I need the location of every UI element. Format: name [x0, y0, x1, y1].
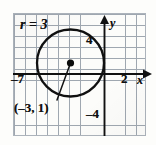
- center-point-dot: [67, 59, 74, 66]
- center-leader-line: [57, 63, 71, 100]
- x-axis-arrowhead: [143, 70, 152, 79]
- y-tick-label-4: 4: [86, 33, 93, 46]
- x-tick-label-negative-7: –7: [11, 72, 24, 85]
- x-axis-label: x: [137, 74, 143, 86]
- circle-graph-figure: r = 3 y 4 –7 2 x (–3, 1) –4: [0, 0, 156, 145]
- center-coordinate-label: (–3, 1): [14, 101, 49, 114]
- y-tick-label-negative-4: –4: [86, 107, 99, 120]
- y-axis-arrowhead: [100, 15, 109, 24]
- x-axis: [13, 70, 152, 79]
- y-axis-label: y: [110, 17, 115, 29]
- radius-label: r = 3: [20, 18, 47, 32]
- x-tick-label-2: 2: [121, 72, 128, 85]
